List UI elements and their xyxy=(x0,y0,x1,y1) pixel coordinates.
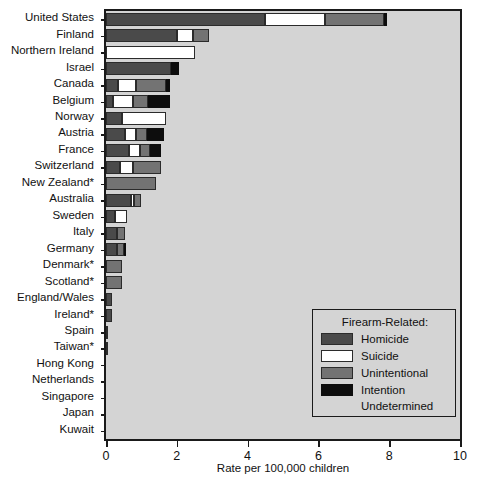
x-axis-tick-label: 2 xyxy=(173,449,180,463)
category-label: Australia xyxy=(49,191,94,205)
bar-segment-homicide xyxy=(106,210,115,223)
bar-segment-unintentional xyxy=(133,161,161,174)
bar-segment-homicide xyxy=(106,13,265,26)
category-tick xyxy=(101,167,106,169)
legend-items: HomicideSuicideUnintentionalIntention xyxy=(321,331,447,398)
bar-segment-homicide xyxy=(106,161,120,174)
legend-item: Homicide xyxy=(321,331,447,347)
bar-row xyxy=(106,424,460,437)
legend-swatch-homicide xyxy=(321,333,353,345)
bar-segment-unintentional xyxy=(106,260,122,273)
category-label: Sweden xyxy=(52,208,94,222)
category-axis-labels: United StatesFinlandNorthern IrelandIsra… xyxy=(0,9,100,441)
category-label: United States xyxy=(25,10,94,24)
stacked-bar xyxy=(106,309,112,322)
bar-segment-undetermined xyxy=(148,95,169,108)
x-axis-tick xyxy=(318,441,320,447)
bar-segment-suicide xyxy=(113,95,132,108)
bar-segment-unintentional xyxy=(136,79,166,92)
bar-row xyxy=(106,210,460,223)
bar-row xyxy=(106,293,460,306)
bar-row xyxy=(106,29,460,42)
legend-label: Suicide xyxy=(361,350,399,362)
category-tick xyxy=(101,134,106,136)
category-tick xyxy=(101,151,106,153)
legend-label: Unintentional xyxy=(361,367,428,379)
category-tick xyxy=(101,36,106,38)
bar-segment-homicide xyxy=(106,29,177,42)
bar-segment-unintentional xyxy=(140,144,151,157)
bar-segment-homicide xyxy=(106,95,113,108)
bar-segment-undetermined xyxy=(171,62,178,75)
stacked-bar xyxy=(106,29,209,42)
legend-item: Intention xyxy=(321,382,447,398)
bar-segment-homicide xyxy=(106,227,117,240)
stacked-bar xyxy=(106,276,122,289)
bar-row xyxy=(106,62,460,75)
bar-segment-homicide xyxy=(106,128,125,141)
bar-segment-suicide xyxy=(129,144,140,157)
bar-row xyxy=(106,194,460,207)
category-label: Northern Ireland xyxy=(11,43,94,57)
bar-segment-suicide xyxy=(118,79,136,92)
bar-segment-unintentional xyxy=(136,128,147,141)
legend-swatch-undetermined xyxy=(321,384,353,396)
bar-segment-undetermined xyxy=(150,144,161,157)
plot-area: Firearm-Related: HomicideSuicideUnintent… xyxy=(104,9,462,441)
category-tick xyxy=(101,332,106,334)
category-label: Spain xyxy=(65,323,94,337)
bar-row xyxy=(106,276,460,289)
legend-label: Homicide xyxy=(361,333,409,345)
bar-row xyxy=(106,112,460,125)
category-tick xyxy=(101,184,106,186)
bar-row xyxy=(106,243,460,256)
legend: Firearm-Related: HomicideSuicideUnintent… xyxy=(312,309,456,417)
category-tick xyxy=(101,283,106,285)
bar-segment-unintentional xyxy=(134,194,141,207)
x-axis-tick-label: 0 xyxy=(103,449,110,463)
stacked-bar xyxy=(106,326,108,339)
bar-row xyxy=(106,161,460,174)
category-label: Hong Kong xyxy=(36,356,94,370)
stacked-bar xyxy=(106,128,164,141)
bar-segment-undetermined xyxy=(166,79,170,92)
bar-segment-homicide xyxy=(106,326,108,339)
category-label: Kuwait xyxy=(59,422,94,436)
bar-segment-homicide xyxy=(106,293,112,306)
stacked-bar xyxy=(106,95,170,108)
stacked-bar xyxy=(106,243,126,256)
category-tick xyxy=(101,431,106,433)
x-axis-tick xyxy=(389,441,391,447)
legend-label: Intention xyxy=(361,384,405,396)
category-label: France xyxy=(58,142,94,156)
category-tick xyxy=(101,102,106,104)
category-tick xyxy=(101,233,106,235)
stacked-bar xyxy=(106,260,122,273)
legend-swatch-unintentional xyxy=(321,367,353,379)
category-label: Italy xyxy=(73,224,94,238)
bar-segment-suicide xyxy=(125,128,136,141)
category-label: Singapore xyxy=(42,389,94,403)
category-label: Norway xyxy=(55,109,94,123)
category-label: Taiwan* xyxy=(54,339,94,353)
category-tick xyxy=(101,85,106,87)
stacked-bar xyxy=(106,13,387,26)
category-tick xyxy=(101,217,106,219)
x-axis-title: Rate per 100,000 children xyxy=(104,462,462,474)
category-label: Netherlands xyxy=(32,372,94,386)
bar-segment-homicide xyxy=(106,194,131,207)
bar-row xyxy=(106,95,460,108)
bar-segment-undetermined xyxy=(147,128,165,141)
x-axis-tick-label: 10 xyxy=(453,449,467,463)
category-tick xyxy=(101,381,106,383)
category-label: Switzerland xyxy=(35,158,94,172)
bar-row xyxy=(106,227,460,240)
bar-segment-homicide xyxy=(106,144,129,157)
stacked-bar xyxy=(106,46,195,59)
x-axis-tick-label: 6 xyxy=(315,449,322,463)
category-label: England/Wales xyxy=(17,290,94,304)
x-axis-tick-label: 4 xyxy=(244,449,251,463)
bar-segment-unintentional xyxy=(117,243,124,256)
bar-segment-undetermined xyxy=(384,13,388,26)
category-label: Japan xyxy=(63,405,94,419)
